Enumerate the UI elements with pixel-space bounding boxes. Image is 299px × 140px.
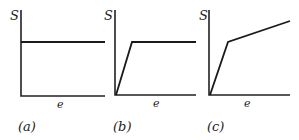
panel-b-curve	[116, 42, 196, 95]
panel-a-axes	[21, 10, 105, 96]
panel-b-axes	[115, 10, 196, 95]
panel-b-caption: (b)	[113, 119, 131, 134]
panel-c-x-label: e	[244, 97, 251, 110]
panel-c-y-label: S	[199, 8, 208, 23]
panel-a-y-label: S	[10, 8, 19, 23]
figure-canvas: S e (a) S e (b) S e (c)	[0, 0, 299, 140]
panel-a-caption: (a)	[18, 119, 36, 134]
panel-c-curve	[210, 21, 290, 95]
panel-a: S e (a)	[10, 8, 105, 134]
panel-b-x-label: e	[153, 97, 160, 110]
panel-c-axes	[209, 10, 290, 95]
panel-b-y-label: S	[104, 8, 113, 23]
panel-c-caption: (c)	[207, 119, 224, 134]
panel-b: S e (b)	[104, 8, 196, 134]
panel-a-x-label: e	[57, 98, 64, 111]
panel-c: S e (c)	[199, 8, 290, 134]
